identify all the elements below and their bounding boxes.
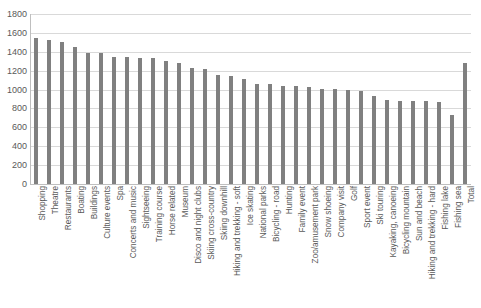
bar-slot (173, 14, 186, 184)
y-axis-line (30, 14, 31, 185)
bar (411, 101, 415, 184)
y-axis-tick-labels: 180016001400120010008006004002000 (0, 14, 27, 184)
bar-slot (199, 14, 212, 184)
x-tick-label-slot: Total (458, 186, 471, 308)
bar (437, 102, 441, 184)
bar-slot (458, 14, 471, 184)
bar (164, 61, 168, 184)
bar-slot (69, 14, 82, 184)
x-tick-label-slot: Disco and night clubs (186, 186, 199, 308)
x-tick-label-slot: Fishing lake (432, 186, 445, 308)
x-tick-label-slot: Sun and beach (406, 186, 419, 308)
y-tick-label: 1600 (1, 29, 27, 38)
bar-slot (43, 14, 56, 184)
bar-slot (393, 14, 406, 184)
x-tick-label-slot: Ski touring (367, 186, 380, 308)
y-tick-label: 800 (1, 104, 27, 113)
bar (34, 38, 38, 184)
bar-chart: 180016001400120010008006004002000 Shoppi… (0, 0, 481, 308)
bar (203, 69, 207, 184)
bar-slot (30, 14, 43, 184)
x-tick-label-slot: Skiing cross-country (199, 186, 212, 308)
bar (86, 53, 90, 184)
bar-slot (251, 14, 264, 184)
bar (99, 53, 103, 184)
bar-slot (445, 14, 458, 184)
x-tick-label-slot: Theatre (43, 186, 56, 308)
bar-slot (134, 14, 147, 184)
y-tick-label: 1200 (1, 67, 27, 76)
bar-slot (160, 14, 173, 184)
x-tick-label-slot: Training course (147, 186, 160, 308)
x-tick-label-slot: Skiing downhill (212, 186, 225, 308)
x-tick-label-slot: Zoo/amusement park (302, 186, 315, 308)
x-tick-label-slot: Bicycling - road (263, 186, 276, 308)
x-tick-label-slot: Sightseeing (134, 186, 147, 308)
bar (268, 84, 272, 184)
bar-slot (225, 14, 238, 184)
x-tick-label-slot: Kayaking, canoeing (380, 186, 393, 308)
x-axis-line (30, 184, 471, 185)
bar-slot (380, 14, 393, 184)
bar (73, 47, 77, 184)
bar (333, 89, 337, 184)
bar-slot (238, 14, 251, 184)
bar (398, 101, 402, 184)
bar-slot (186, 14, 199, 184)
bar (125, 57, 129, 185)
bar-slot (276, 14, 289, 184)
bar (294, 86, 298, 184)
x-tick-label: Total (468, 186, 476, 203)
y-tick-label: 0 (1, 180, 27, 189)
bar (190, 68, 194, 184)
y-tick-label: 1400 (1, 48, 27, 57)
bar-slot (121, 14, 134, 184)
bar (47, 40, 51, 185)
bar (242, 79, 246, 184)
x-tick-label-slot: Ice skating (238, 186, 251, 308)
x-tick-label-slot: Boating (69, 186, 82, 308)
bar-slot (302, 14, 315, 184)
bar (60, 42, 64, 184)
x-axis-tick-labels: ShoppingTheatreRestaurantsBoatingBuildin… (30, 186, 471, 308)
x-tick-label-slot: Sport event (354, 186, 367, 308)
bar-slot (419, 14, 432, 184)
x-tick-label-slot: Shopping (30, 186, 43, 308)
bar (255, 84, 259, 184)
bar-slot (263, 14, 276, 184)
x-tick-label-slot: Buildings (82, 186, 95, 308)
bar (151, 58, 155, 184)
x-tick-label-slot: Hiking and trekking - soft (225, 186, 238, 308)
x-tick-label-slot: Spa (108, 186, 121, 308)
x-tick-label-slot: Museum (173, 186, 186, 308)
bar-slot (95, 14, 108, 184)
bar (346, 90, 350, 184)
bar-slot (82, 14, 95, 184)
bar-slot (328, 14, 341, 184)
plot-area (30, 14, 471, 184)
bar (112, 57, 116, 185)
x-tick-label-slot: Bicycling mountain (393, 186, 406, 308)
bar (307, 87, 311, 184)
x-tick-label-slot: Concerts and music (121, 186, 134, 308)
bar-slot (406, 14, 419, 184)
x-tick-label-slot: Restaurants (56, 186, 69, 308)
x-tick-label-slot: Family event (289, 186, 302, 308)
x-tick-label-slot: Golf (341, 186, 354, 308)
y-tick-label: 400 (1, 142, 27, 151)
x-tick-label-slot: Culture events (95, 186, 108, 308)
bar-slot (108, 14, 121, 184)
bar-slot (315, 14, 328, 184)
bar (177, 63, 181, 184)
bar-slot (212, 14, 225, 184)
bar (229, 76, 233, 184)
bar-slot (341, 14, 354, 184)
bar (138, 58, 142, 184)
x-tick-label-slot: Horse related (160, 186, 173, 308)
y-tick-label: 200 (1, 161, 27, 170)
bar (359, 91, 363, 185)
bar (450, 115, 454, 184)
bar-slot (367, 14, 380, 184)
y-tick-label: 600 (1, 123, 27, 132)
bar-series (30, 14, 471, 184)
